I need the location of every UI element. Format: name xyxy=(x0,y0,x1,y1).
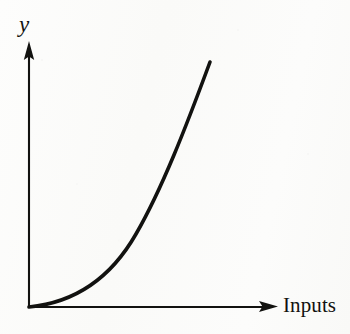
chart-plot-area xyxy=(0,0,350,334)
y-axis-label: y xyxy=(19,13,29,36)
output-curve xyxy=(29,62,210,307)
figure-container: y Inputs xyxy=(0,0,350,334)
x-axis-label: Inputs xyxy=(283,295,336,316)
